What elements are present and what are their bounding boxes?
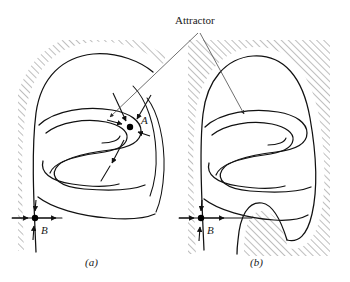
point-label-a: A: [140, 114, 148, 126]
saddle-point-dot-icon-a: [127, 124, 133, 130]
point-label-b-b: B: [207, 224, 214, 236]
panel-caption-b: (b): [250, 256, 263, 269]
saddle-point-dot-icon-b-a: [32, 215, 38, 221]
attractor-label: Attractor: [175, 14, 215, 26]
panel-caption-a: (a): [85, 256, 98, 269]
attractor-figure: A B (a): [0, 0, 350, 282]
point-label-b-a: B: [41, 224, 48, 236]
figure-canvas: A B (a): [0, 0, 350, 282]
saddle-point-dot-icon-b-b: [198, 215, 204, 221]
